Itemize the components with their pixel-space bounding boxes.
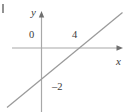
graph-figure: y x 0 4 –2 xyxy=(0,0,128,112)
coordinate-plot xyxy=(0,0,128,112)
y-axis-arrow-icon xyxy=(39,11,44,18)
y-axis-label: y xyxy=(31,7,36,18)
x-intercept-label: 4 xyxy=(72,30,77,41)
origin-label: 0 xyxy=(29,30,34,41)
x-axis-arrow-icon xyxy=(117,45,124,51)
plotted-line xyxy=(7,13,123,108)
y-intercept-label: –2 xyxy=(52,82,63,93)
x-axis-label: x xyxy=(116,56,121,67)
